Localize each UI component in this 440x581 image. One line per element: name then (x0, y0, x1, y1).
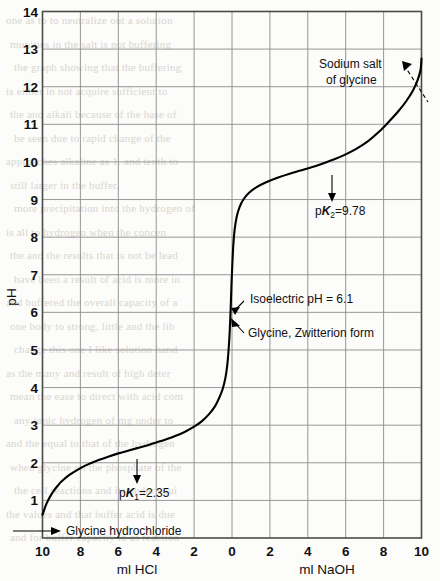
y-tick-label: 7 (30, 268, 38, 283)
x-axis-tick-labels: 1086420246810 (35, 544, 429, 559)
y-tick-label: 4 (30, 381, 38, 396)
x-tick-label: 2 (190, 544, 198, 559)
y-tick-label: 6 (30, 305, 38, 320)
glycine-hcl-arrowhead (51, 527, 61, 535)
annotation-zwitterion: Glycine, Zwitterion form (231, 318, 374, 340)
annotation-pk2: pK2=9.78 (315, 175, 366, 220)
annotation-sodium-salt-line1: Sodium salt (319, 57, 382, 71)
x-axis-title-right: ml NaOH (299, 562, 355, 577)
y-tick-label: 5 (30, 343, 38, 358)
annotation-sodium-salt: Sodium salt of glycine (319, 57, 428, 102)
y-tick-label: 11 (24, 117, 39, 132)
pk2-arrowhead (328, 193, 336, 202)
x-tick-label: 10 (35, 544, 50, 559)
y-tick-label: 12 (23, 80, 38, 95)
pk2-value: =9.78 (335, 204, 366, 218)
x-tick-label: 0 (228, 544, 236, 559)
pk1-arrowhead (133, 475, 141, 484)
x-tick-label: 2 (266, 544, 274, 559)
figure-page: one as to to neutralize out a solutionmu… (0, 0, 440, 581)
annotation-glycine-hydrochloride-label: Glycine hydrochloride (66, 524, 182, 538)
y-tick-label: 8 (30, 230, 38, 245)
sodium-salt-arrowhead (402, 61, 412, 71)
annotation-isoelectric-label: Isoelectric pH = 6.1 (250, 292, 353, 306)
annotation-pk1-label: pK1=2.35 (119, 486, 170, 502)
y-tick-label: 1 (30, 493, 38, 508)
sodium-salt-leader-line (404, 65, 428, 102)
annotation-isoelectric: Isoelectric pH = 6.1 (231, 292, 353, 315)
y-tick-label: 10 (23, 155, 38, 170)
x-tick-label: 8 (380, 544, 388, 559)
y-tick-label: 9 (30, 193, 38, 208)
y-axis-title: pH (4, 288, 19, 305)
annotation-glycine-hydrochloride: Glycine hydrochloride (13, 524, 182, 538)
y-tick-label: 13 (23, 42, 39, 57)
zwitterion-arrowhead (231, 318, 240, 327)
x-tick-label: 4 (152, 544, 160, 559)
x-tick-label: 6 (115, 544, 123, 559)
titration-curve-chart: 1413121110987654321 1086420246810 pH ml … (0, 0, 440, 581)
annotation-sodium-salt-line2: of glycine (326, 73, 377, 87)
x-tick-label: 8 (77, 544, 85, 559)
annotation-pk1: pK1=2.35 (119, 459, 170, 502)
pk1-value: =2.35 (139, 486, 170, 500)
x-tick-label: 6 (342, 544, 350, 559)
x-tick-label: 4 (304, 544, 312, 559)
annotation-pk2-label: pK2=9.78 (315, 204, 366, 220)
y-axis-tick-labels: 1413121110987654321 (23, 5, 39, 509)
y-tick-label: 3 (30, 418, 38, 433)
x-axis-title-left: ml HCl (117, 562, 158, 577)
annotation-zwitterion-label: Glycine, Zwitterion form (248, 326, 374, 340)
x-tick-label: 10 (414, 544, 429, 559)
y-tick-label: 2 (30, 456, 38, 471)
y-tick-label: 14 (23, 5, 39, 20)
